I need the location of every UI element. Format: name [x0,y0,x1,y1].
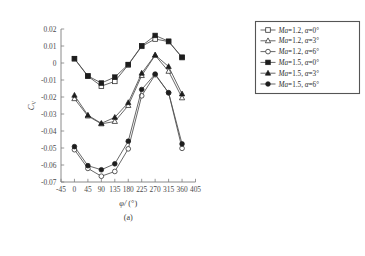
marker-open-circle [126,147,131,152]
series-3 [72,33,184,85]
marker-filled-circle [180,142,185,147]
marker-open-circle [99,174,104,179]
x-tick-label: 180 [123,185,134,194]
marker-filled-square [153,33,158,38]
x-tick-label: 0 [73,185,77,194]
marker-open-square [266,28,271,33]
legend-label: Ma=1.5, α=6° [278,81,320,89]
marker-filled-square [99,81,104,86]
legend-label: Ma=1.5, α=0° [278,59,320,67]
y-tick-label: -0.07 [41,178,57,187]
marker-filled-square [126,62,131,67]
marker-filled-triangle [153,52,158,57]
chart-svg: 0.020.010-0.01-0.02-0.03-0.04-0.05-0.06-… [0,0,365,256]
y-axis-title: CV [27,101,37,111]
y-tick-label: -0.03 [41,110,57,119]
y-tick-label: 0.01 [44,42,57,51]
marker-filled-square [72,56,77,61]
marker-filled-circle [126,139,131,144]
x-tick-label: 45 [84,185,92,194]
y-tick-label: -0.04 [41,127,57,136]
marker-filled-circle [112,161,117,166]
marker-open-circle [180,146,185,151]
x-tick-label: 360 [177,185,188,194]
series-line [74,74,182,170]
legend: Ma=1.2, α=0°Ma=1.2, α=3°Ma=1.2, α=6°Ma=1… [256,22,360,94]
series-2 [72,72,184,178]
x-axis-title: φ/ (°) [119,199,137,208]
marker-filled-circle [166,90,171,95]
legend-label: Ma=1.5, α=3° [278,70,320,78]
marker-filled-circle [266,82,271,87]
x-tick-label: 315 [163,185,174,194]
legend-label: Ma=1.2, α=6° [278,48,320,56]
y-tick-label: -0.05 [41,144,57,153]
y-tick-label: 0 [53,59,57,68]
x-tick-label: 90 [98,185,106,194]
marker-filled-circle [139,87,144,92]
marker-filled-circle [99,167,104,172]
series-line [74,75,182,176]
x-tick-label: 270 [150,185,161,194]
y-tick-label: 0.02 [44,25,57,34]
x-tick-label: -45 [56,185,66,194]
legend-label: Ma=1.2, α=0° [278,27,320,35]
legend-label: Ma=1.2, α=3° [278,37,320,45]
marker-filled-triangle [72,92,77,97]
figure-caption: (a) [124,213,133,222]
y-tick-label: -0.02 [41,93,57,102]
series-5 [72,72,184,172]
series-root [72,33,185,178]
y-tick-label: -0.06 [41,161,57,170]
figure-container: 0.020.010-0.01-0.02-0.03-0.04-0.05-0.06-… [0,0,365,256]
marker-filled-circle [153,72,158,77]
x-tick-label: 135 [109,185,120,194]
marker-filled-square [266,60,271,65]
marker-filled-circle [72,144,77,149]
marker-filled-square [113,75,118,80]
marker-filled-square [139,44,144,49]
x-tick-label: 225 [136,185,147,194]
marker-filled-square [180,55,185,60]
x-axis-ticks: -4504590135180225270315360405 [56,179,201,194]
y-tick-label: -0.01 [41,76,57,85]
marker-open-circle [266,49,271,54]
x-tick-label: 405 [190,185,201,194]
chart-plot-area: 0.020.010-0.01-0.02-0.03-0.04-0.05-0.06-… [0,0,365,256]
marker-filled-circle [86,163,91,168]
marker-open-circle [112,169,117,174]
marker-filled-square [166,39,171,44]
marker-filled-square [86,74,91,79]
